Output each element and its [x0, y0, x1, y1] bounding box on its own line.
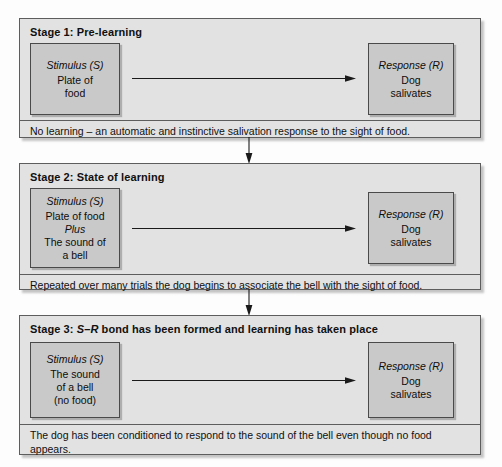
- response-text-1-line-2: salivates: [391, 87, 432, 100]
- stage-title-3-suffix: bond has been formed and learning has ta…: [98, 323, 377, 335]
- stage-title-1: Stage 1: Pre-learning: [30, 26, 142, 38]
- response-text-2-line-2: salivates: [391, 236, 432, 249]
- stimulus-text-3-line-2: of a bell: [57, 381, 94, 394]
- stage-caption-3: The dog has been conditioned to respond …: [30, 428, 466, 456]
- caption-divider-3: [20, 424, 480, 425]
- stimulus-text-3-line-1: The sound: [50, 368, 100, 381]
- s-to-r-arrow-3: [132, 376, 356, 385]
- stage-title-3-emphasis: S–R: [77, 323, 99, 335]
- response-box-2: Response (R) Dog salivates: [368, 192, 454, 264]
- response-text-1-line-1: Dog: [401, 74, 420, 87]
- stage-title-2: Stage 2: State of learning: [30, 171, 165, 183]
- response-text-3-line-2: salivates: [391, 388, 432, 401]
- stage-title-2-suffix: State of learning: [77, 171, 165, 183]
- stimulus-box-1: Stimulus (S) Plate of food: [30, 43, 120, 115]
- stimulus-text-1-line-1: Plate of: [57, 74, 93, 87]
- stimulus-label-3: Stimulus (S): [46, 353, 103, 366]
- response-text-3-line-1: Dog: [401, 375, 420, 388]
- stage-title-2-prefix: Stage 2:: [30, 171, 77, 183]
- stimulus-text-2-line-2: Plus: [65, 223, 85, 236]
- stimulus-text-2-line-3: The sound of: [44, 236, 105, 249]
- connector-arrow-1-to-2: [243, 137, 255, 164]
- stimulus-text-3-line-3: (no food): [54, 394, 96, 407]
- stage-caption-1: No learning – an automatic and instincti…: [30, 124, 466, 138]
- stage-title-3: Stage 3: S–R bond has been formed and le…: [30, 323, 378, 335]
- response-label-2: Response (R): [379, 208, 444, 221]
- s-to-r-arrow-2: [132, 224, 356, 233]
- stage-panel-1: Stage 1: Pre-learning Stimulus (S) Plate…: [19, 18, 481, 138]
- stage-title-1-suffix: Pre-learning: [77, 26, 142, 38]
- connector-arrow-2-to-3: [243, 289, 255, 316]
- stimulus-box-3: Stimulus (S) The sound of a bell (no foo…: [30, 342, 120, 418]
- stage-panel-3: Stage 3: S–R bond has been formed and le…: [19, 315, 481, 455]
- stimulus-text-2-line-4: a bell: [62, 249, 87, 262]
- stimulus-text-2-line-1: Plate of food: [46, 210, 105, 223]
- stimulus-label-1: Stimulus (S): [46, 59, 103, 72]
- response-label-3: Response (R): [379, 360, 444, 373]
- response-box-1: Response (R) Dog salivates: [368, 43, 454, 115]
- stage-title-1-prefix: Stage 1:: [30, 26, 77, 38]
- classical-conditioning-diagram: Stage 1: Pre-learning Stimulus (S) Plate…: [0, 0, 502, 467]
- caption-divider-1: [20, 120, 480, 121]
- stimulus-box-2: Stimulus (S) Plate of food Plus The soun…: [30, 188, 120, 268]
- caption-divider-2: [20, 274, 480, 275]
- response-box-3: Response (R) Dog salivates: [368, 342, 454, 418]
- stimulus-text-1-line-2: food: [65, 87, 85, 100]
- stimulus-label-2: Stimulus (S): [46, 195, 103, 208]
- response-label-1: Response (R): [379, 59, 444, 72]
- stage-title-3-prefix: Stage 3:: [30, 323, 77, 335]
- response-text-2-line-1: Dog: [401, 223, 420, 236]
- s-to-r-arrow-1: [132, 74, 356, 83]
- stage-panel-2: Stage 2: State of learning Stimulus (S) …: [19, 163, 481, 290]
